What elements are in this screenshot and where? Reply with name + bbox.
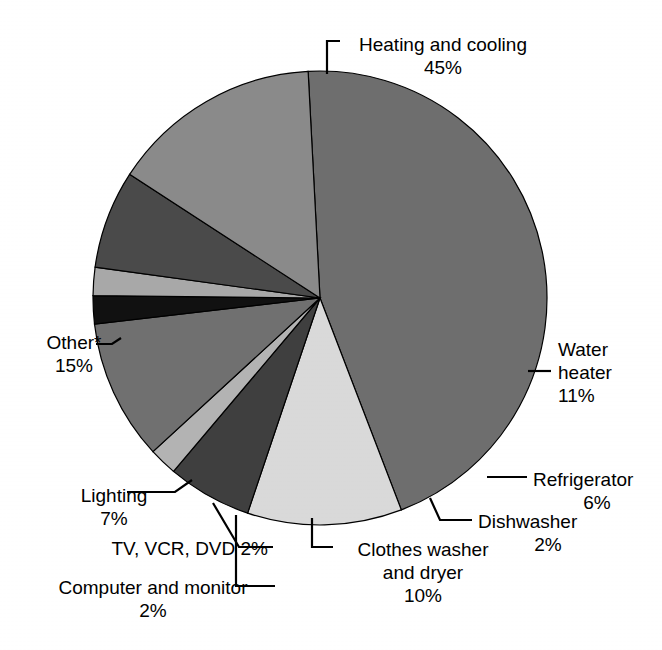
slice-label-other: Other* 15% (26, 331, 122, 377)
slice-label-other-name: Other* (26, 331, 122, 354)
leader-line-dishwasher (430, 498, 472, 520)
pie-chart-figure: Heating and cooling 45% Water heater 11%… (0, 0, 662, 650)
slice-label-lighting-value: 7% (56, 507, 172, 530)
slice-label-refrigerator: Refrigerator 6% (533, 468, 661, 514)
slice-label-clothes-washer-and-dryer-name-1: Clothes washer (338, 538, 508, 561)
slice-label-heating-and-cooling-name: Heating and cooling (333, 33, 553, 56)
slice-label-lighting-name: Lighting (56, 484, 172, 507)
pie-slices (93, 71, 547, 525)
slice-label-water-heater-name-1: Water (558, 338, 658, 361)
slice-label-tv-vcr-dvd-name-and-value: TV, VCR, DVD 2% (46, 537, 268, 560)
slice-label-clothes-washer-and-dryer-name-2: and dryer (338, 561, 508, 584)
slice-label-heating-and-cooling-value: 45% (333, 56, 553, 79)
slice-label-tv-vcr-dvd: TV, VCR, DVD 2% (46, 537, 268, 560)
slice-label-lighting: Lighting 7% (56, 484, 172, 530)
slice-label-computer-and-monitor: Computer and monitor 2% (38, 576, 268, 622)
slice-label-water-heater-value: 11% (558, 384, 658, 407)
slice-label-computer-and-monitor-name: Computer and monitor (38, 576, 268, 599)
slice-label-other-value: 15% (26, 354, 122, 377)
slice-label-heating-and-cooling: Heating and cooling 45% (333, 33, 553, 79)
slice-label-clothes-washer-and-dryer: Clothes washer and dryer 10% (338, 538, 508, 607)
slice-label-water-heater: Water heater 11% (558, 338, 658, 407)
slice-label-computer-and-monitor-value: 2% (38, 599, 268, 622)
slice-label-dishwasher-name: Dishwasher (478, 510, 618, 533)
slice-label-refrigerator-name: Refrigerator (533, 468, 661, 491)
slice-label-clothes-washer-and-dryer-value: 10% (338, 584, 508, 607)
slice-label-water-heater-name-2: heater (558, 361, 658, 384)
